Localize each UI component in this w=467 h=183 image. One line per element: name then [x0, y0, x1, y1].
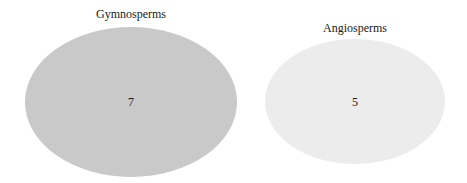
set-label-angiosperms: Angiosperms	[323, 21, 387, 35]
set-count-angiosperms: 5	[352, 95, 358, 109]
set-count-gymnosperms: 7	[128, 95, 134, 109]
set-label-gymnosperms: Gymnosperms	[96, 7, 166, 21]
